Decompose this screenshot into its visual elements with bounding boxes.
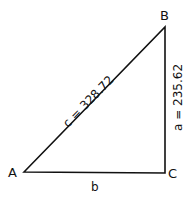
vertex-a-label: A [8, 165, 17, 180]
triangle-diagram: A B C b c = 328.72 a = 235.62 [0, 0, 193, 197]
side-b-label: b [91, 180, 99, 194]
vertex-b-label: B [160, 8, 169, 23]
vertex-c-label: C [168, 166, 177, 181]
side-c-label: c = 328.72 [60, 73, 116, 130]
side-a-label: a = 235.62 [171, 64, 185, 131]
